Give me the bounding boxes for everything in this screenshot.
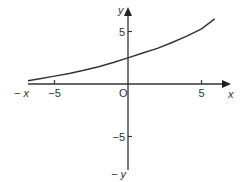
y-axis-label: y (117, 4, 125, 16)
y-tick-label: −5 (112, 131, 125, 143)
y-axis-arrow-icon (124, 7, 132, 16)
y-neg-label: − y (111, 168, 127, 180)
y-tick-label: 5 (119, 26, 125, 38)
x-tick-label: −5 (48, 87, 61, 99)
origin-label: O (119, 87, 128, 99)
graph: −555−5 y x − x − y O (0, 0, 244, 182)
x-axis-arrow-icon (222, 80, 231, 88)
x-neg-label: − x (14, 87, 29, 99)
x-axis-label: x (227, 88, 234, 100)
x-tick-label: 5 (198, 87, 204, 99)
